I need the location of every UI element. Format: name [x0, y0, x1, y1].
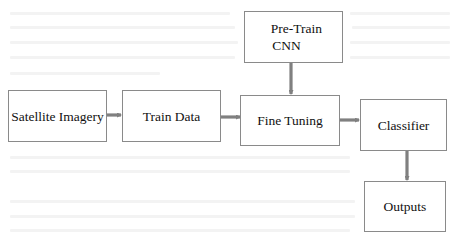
node-outputs: Outputs [364, 181, 446, 232]
node-label-line1: Pre-Train [265, 20, 322, 37]
node-label: Fine Tuning [257, 112, 323, 129]
node-label: Outputs [384, 198, 427, 215]
node-fine-tuning: Fine Tuning [240, 95, 340, 146]
node-satellite-imagery: Satellite Imagery [8, 90, 107, 142]
node-pretrain-cnn: Pre-Train CNN [244, 11, 343, 63]
node-classifier: Classifier [360, 99, 447, 151]
flowchart-canvas: Satellite Imagery Train Data Fine Tuning… [0, 0, 455, 242]
node-label: Satellite Imagery [11, 108, 104, 125]
node-label: Train Data [143, 108, 201, 125]
node-label-line2: CNN [272, 37, 315, 54]
node-train-data: Train Data [122, 90, 221, 142]
node-label: Classifier [378, 117, 430, 134]
